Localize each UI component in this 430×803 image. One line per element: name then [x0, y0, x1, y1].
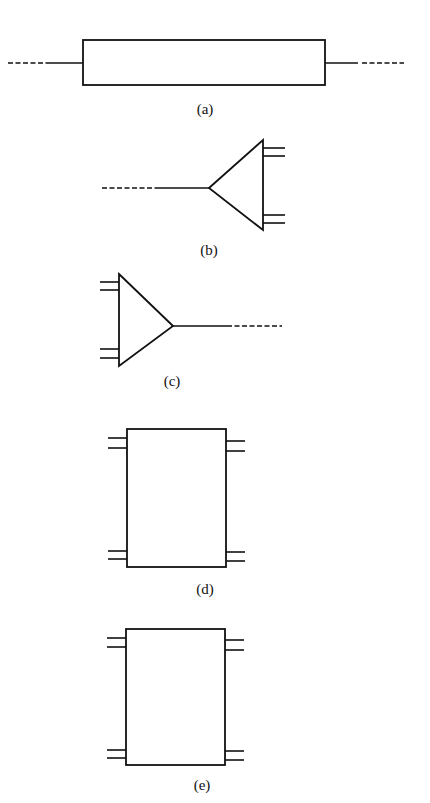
panel-d-label: (d): [196, 581, 214, 598]
component-box: [83, 40, 325, 85]
panel-c: (c): [100, 274, 282, 390]
triangle: [119, 274, 173, 366]
diagram-canvas: (a) (b) (c) (d): [0, 0, 430, 803]
component-box: [126, 629, 225, 765]
panel-b-label: (b): [200, 242, 218, 259]
panel-c-label: (c): [164, 373, 181, 390]
panel-d: (d): [108, 429, 245, 598]
triangle: [209, 140, 263, 230]
panel-e-label: (e): [194, 777, 211, 794]
panel-a: (a): [8, 40, 404, 118]
component-box: [127, 429, 226, 567]
panel-b: (b): [102, 140, 285, 259]
panel-e: (e): [107, 629, 244, 794]
panel-a-label: (a): [197, 101, 214, 118]
